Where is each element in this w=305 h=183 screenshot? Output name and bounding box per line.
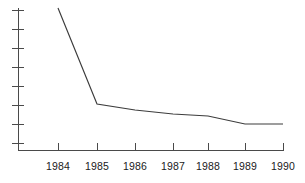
- data-series-group: [58, 8, 283, 124]
- x-axis-label-1987: 1987: [161, 160, 185, 172]
- x-axis: 1984198519861987198819891990: [18, 143, 295, 172]
- x-axis-label-1985: 1985: [85, 160, 109, 172]
- x-axis-label-1984: 1984: [46, 160, 70, 172]
- x-axis-tick-labels: 1984198519861987198819891990: [46, 160, 295, 172]
- chart-canvas: 1984198519861987198819891990: [0, 0, 305, 183]
- x-axis-label-1989: 1989: [233, 160, 257, 172]
- x-axis-label-1990: 1990: [271, 160, 295, 172]
- y-axis: [12, 8, 24, 150]
- x-axis-label-1986: 1986: [123, 160, 147, 172]
- line-chart-figure: 1984198519861987198819891990: [0, 0, 305, 183]
- x-axis-tick-marks: [59, 143, 284, 151]
- data-line-series-1: [58, 8, 283, 124]
- x-axis-label-1988: 1988: [196, 160, 220, 172]
